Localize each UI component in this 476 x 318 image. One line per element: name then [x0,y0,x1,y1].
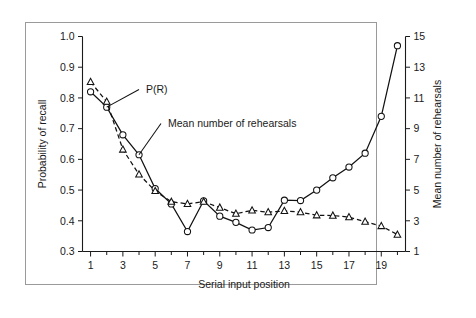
y2-axis-tick-label: 15 [414,30,426,42]
data-point-circle [346,164,352,170]
data-point-triangle [103,98,110,104]
data-point-triangle [120,146,127,152]
x-axis-tick-label: 15 [311,259,323,271]
data-point-circle [87,89,93,95]
x-axis-title: Serial input position [198,278,290,290]
serial-position-chart: 0.30.40.50.60.70.80.91.01357911131513579… [0,0,476,318]
data-point-circle [297,197,303,203]
y2-axis-tick-label: 7 [414,153,420,165]
y-axis-tick-label: 0.7 [60,122,75,134]
series-group [87,43,400,238]
y-axis-tick-label: 0.4 [60,215,75,227]
series-line [91,46,398,232]
data-point-circle [217,213,223,219]
data-point-triangle [281,207,288,213]
data-point-circle [394,43,400,49]
y2-axis-tick-label: 3 [414,215,420,227]
data-point-circle [184,228,190,234]
data-point-triangle [362,218,369,224]
annotation-group: P(R)Mean number of rehearsals [107,83,297,155]
data-point-triangle [136,171,143,177]
annotation-label-rehearsals: Mean number of rehearsals [168,117,296,129]
x-axis-tick-label: 17 [343,259,355,271]
y2-axis-tick-label: 11 [414,92,425,104]
data-point-triangle [394,231,401,237]
data-point-circle [330,175,336,181]
x-axis-tick-label: 11 [247,259,258,271]
data-point-circle [281,197,287,203]
x-axis-tick-label: 13 [279,259,291,271]
annotation-leader-line [107,90,139,108]
y2-axis-tick-label: 9 [414,122,420,134]
x-axis-tick-label: 19 [375,259,387,271]
y-axis-tick-label: 1.0 [60,30,75,42]
y2-axis-tick-label: 1 [414,245,420,257]
data-point-triangle [249,207,256,213]
series-probability-of-recall [87,43,400,235]
data-point-circle [362,150,368,156]
data-point-circle [378,113,384,119]
data-point-circle [265,224,271,230]
y2-axis-tick-label: 5 [414,184,420,196]
y-axis-title: Probability of recall [36,100,48,189]
data-point-circle [249,227,255,233]
y-axis-tick-label: 0.5 [60,184,75,196]
x-axis-tick-label: 3 [120,259,126,271]
axes-group: 0.30.40.50.60.70.80.91.01357911131513579… [60,30,425,270]
y-axis-tick-label: 0.6 [60,153,75,165]
series-line [91,82,398,235]
series-mean-rehearsals [87,78,400,237]
y-axis-tick-label: 0.9 [60,61,75,73]
y2-axis-tick-label: 13 [414,61,426,73]
y-axis-tick-label: 0.8 [60,92,75,104]
annotation-label-pr: P(R) [146,83,168,95]
x-axis-tick-label: 9 [217,259,223,271]
data-point-triangle [87,78,94,84]
y2-axis-title: Mean number of rehearsals [431,80,443,208]
chart-svg: 0.30.40.50.60.70.80.91.01357911131513579… [0,0,476,318]
data-point-circle [314,187,320,193]
x-axis-tick-label: 1 [88,259,94,271]
x-axis-tick-label: 5 [152,259,158,271]
y-axis-tick-label: 0.3 [60,245,75,257]
data-point-circle [233,219,239,225]
x-axis-tick-label: 7 [185,259,191,271]
annotation-leader-line [139,124,161,155]
data-point-circle [120,132,126,138]
